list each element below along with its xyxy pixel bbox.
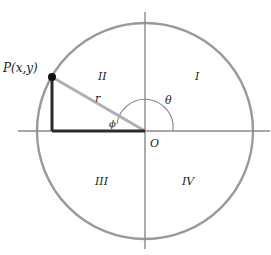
quadrant-4-label: IV	[181, 175, 195, 188]
point-label: P(x,y)	[2, 61, 38, 75]
point-p	[48, 73, 56, 81]
quadrant-3-label: III	[94, 175, 109, 188]
quadrant-1-label: I	[194, 70, 200, 83]
theta-label: θ	[165, 94, 172, 107]
radius-label: r	[95, 92, 101, 105]
origin-label: O	[150, 137, 159, 150]
phi-label: ϕ	[109, 118, 116, 129]
unit-circle-diagram: P(x,y) r θ ϕ O I II III IV	[0, 0, 271, 255]
quadrant-2-label: II	[97, 70, 107, 83]
